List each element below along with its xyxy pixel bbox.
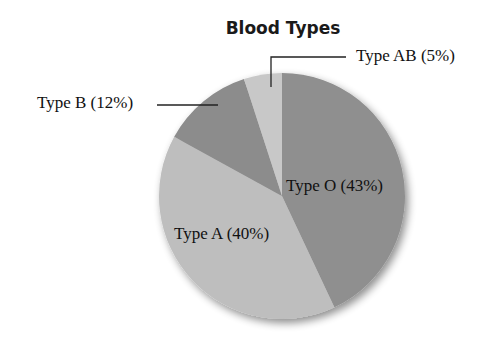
chart-title: Blood Types (0, 18, 492, 38)
label-type-o: Type O (43%) (286, 176, 383, 196)
label-type-ab: Type AB (5%) (356, 46, 455, 66)
label-type-a: Type A (40%) (174, 224, 269, 244)
label-type-b: Type B (12%) (37, 93, 133, 113)
